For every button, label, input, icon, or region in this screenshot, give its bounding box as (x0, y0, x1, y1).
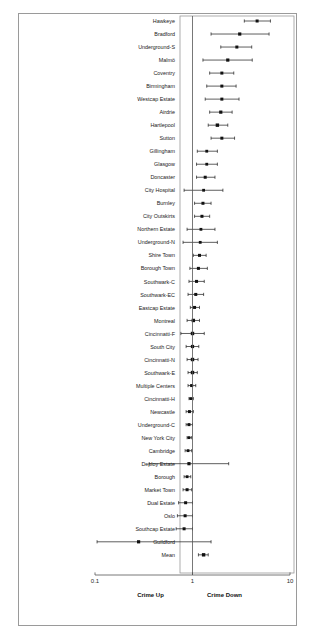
row-label: Southwark-EC (140, 292, 175, 298)
point-estimate-marker (256, 20, 259, 23)
point-estimate-marker (220, 72, 223, 75)
forest-row: Underground-S (138, 44, 252, 50)
row-label: Multiple Centers (136, 383, 175, 389)
row-label: Airdrie (159, 109, 175, 115)
axis-tick-label: 10 (287, 578, 294, 584)
forest-row: Burnley (157, 200, 211, 206)
forest-row: Borough (155, 474, 191, 480)
point-estimate-marker (188, 436, 191, 439)
point-estimate-marker (193, 306, 196, 309)
forest-row: South City (150, 344, 199, 350)
forest-row: Birmingham (146, 83, 236, 89)
row-label: Bradford (154, 31, 175, 37)
point-estimate-marker (197, 267, 200, 270)
row-label: Newcastle (150, 409, 175, 415)
row-label: Underground-N (138, 239, 175, 245)
row-label: Borough Town (141, 265, 175, 271)
forest-row: Cincinnatti-N (144, 357, 198, 363)
forest-row: Southwark-E (144, 370, 197, 376)
forest-row: Gillingham (150, 148, 218, 154)
point-estimate-marker (188, 410, 191, 413)
forest-row: Newcastle (150, 409, 193, 415)
point-estimate-marker (220, 137, 223, 140)
point-estimate-marker (238, 32, 241, 35)
row-label: City Hospital (145, 187, 175, 193)
row-label: Underground-S (138, 44, 175, 50)
row-label: Cincinnatti-N (144, 357, 175, 363)
point-estimate-marker (205, 163, 208, 166)
forest-row: Glasgow (154, 161, 217, 167)
forest-row: Guildford (97, 539, 211, 545)
row-label: Southwark-E (144, 370, 175, 376)
point-estimate-marker (216, 123, 219, 126)
row-label: Eastcap Estate (139, 305, 175, 311)
point-estimate-marker (220, 98, 223, 101)
point-estimate-marker (219, 111, 222, 114)
forest-row: Borough Town (141, 265, 208, 271)
point-estimate-marker (184, 514, 187, 517)
forest-row: Mean (162, 552, 209, 558)
crime-up-annotation: Crime Up (137, 592, 164, 598)
forest-row: Oslo (164, 513, 193, 519)
row-label: Glasgow (154, 161, 175, 167)
row-label: Oslo (164, 513, 175, 519)
forest-row: Sutton (159, 135, 234, 141)
row-label: Birmingham (146, 83, 175, 89)
forest-row: Cincinnatti-F (145, 331, 205, 337)
point-estimate-marker (204, 176, 207, 179)
forest-row: Bradford (154, 31, 269, 37)
point-estimate-marker (194, 293, 197, 296)
forest-row: Cambridge (149, 448, 192, 454)
row-label: Cincinnatti-H (144, 396, 175, 402)
row-label: South City (150, 344, 175, 350)
forest-row: Malmö (159, 57, 252, 63)
row-label: Dual Estate (147, 500, 175, 506)
row-label: City Outskirts (143, 213, 175, 219)
forest-row: Westcap Estate (137, 96, 239, 102)
row-label: Coventry (153, 70, 175, 76)
point-estimate-marker (195, 280, 198, 283)
row-label: Underground-C (138, 422, 175, 428)
row-label: Hawkeye (153, 18, 175, 24)
forest-row: Doncaster (150, 174, 215, 180)
point-estimate-marker (184, 501, 187, 504)
forest-row: New York City (141, 435, 191, 441)
point-estimate-marker (200, 215, 203, 218)
row-label: Hartlepool (150, 122, 175, 128)
point-estimate-marker (235, 46, 238, 49)
point-estimate-marker (202, 553, 205, 556)
axis-direction-annotations: Crime UpCrime Down (137, 592, 242, 598)
row-label: Southwark-C (144, 279, 175, 285)
point-estimate-marker (202, 189, 205, 192)
row-label: Malmö (159, 57, 175, 63)
row-label: Shire Town (148, 252, 175, 258)
forest-row: Airdrie (159, 109, 232, 115)
forest-row: Eastcap Estate (139, 305, 200, 311)
row-label: Northern Estate (137, 226, 175, 232)
point-estimate-marker (199, 241, 202, 244)
forest-row: City Hospital (145, 187, 223, 193)
row-label: Cincinnatti-F (145, 331, 176, 337)
forest-row: Market Town (145, 487, 192, 493)
row-label: Burnley (157, 200, 176, 206)
forest-rows: HawkeyeBradfordUnderground-SMalmöCoventr… (97, 18, 270, 558)
forest-row: Underground-N (138, 239, 218, 245)
forest-row: City Outskirts (143, 213, 210, 219)
row-label: Montreal (154, 318, 175, 324)
axis-tick-label: 0.1 (91, 578, 100, 584)
row-label: Market Town (145, 487, 175, 493)
point-estimate-marker (200, 228, 203, 231)
row-label: Doncaster (150, 174, 175, 180)
forest-plot-figure: HawkeyeBradfordUnderground-SMalmöCoventr… (0, 0, 314, 640)
row-label: Gillingham (150, 148, 176, 154)
x-axis: 0.1110 (91, 572, 294, 584)
forest-row: Coventry (153, 70, 233, 76)
forest-row: Hartlepool (150, 122, 227, 128)
point-estimate-marker (186, 475, 189, 478)
point-estimate-marker (183, 527, 186, 530)
point-estimate-marker (198, 254, 201, 257)
forest-row: Southcap Estate (135, 526, 192, 532)
axis-tick-label: 1 (191, 578, 195, 584)
crime-down-annotation: Crime Down (207, 592, 242, 598)
point-estimate-marker (187, 462, 190, 465)
